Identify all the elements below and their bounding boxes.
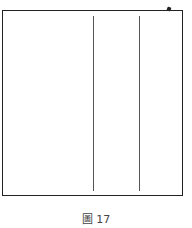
figure-caption: 圖 17 — [0, 210, 192, 226]
caption-number: 17 — [96, 213, 110, 226]
vertical-line-2 — [139, 16, 140, 191]
caption-char: 圖 — [82, 213, 93, 226]
vertical-line-1 — [93, 16, 94, 191]
